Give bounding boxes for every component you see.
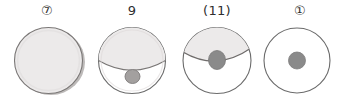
panel-drawing-2 (90, 22, 174, 100)
diagram-figure: ⑦ 9 (11) (0, 0, 340, 103)
diagram-panel-1: ⑦ (4, 0, 90, 103)
panel-label-4: ① (260, 1, 340, 21)
panel-drawing-1 (4, 22, 90, 100)
panel-drawing-3 (174, 22, 260, 100)
circle-dot-3 (209, 51, 226, 70)
diagram-panel-2: 9 (90, 0, 174, 103)
circle-dot-4 (289, 52, 306, 69)
panel-label-2: 9 (90, 1, 174, 21)
circle-dot-2 (125, 70, 140, 84)
circle-outline-1 (15, 28, 83, 94)
panel-drawing-4 (260, 22, 340, 100)
diagram-panel-3: (11) (174, 0, 260, 103)
diagram-panel-4: ① (260, 0, 340, 103)
panel-label-3: (11) (174, 1, 260, 21)
panel-label-1: ⑦ (4, 1, 90, 21)
